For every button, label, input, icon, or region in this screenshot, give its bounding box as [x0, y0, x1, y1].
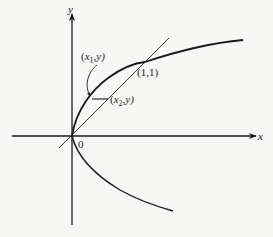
intersection-label: (1,1) — [137, 66, 158, 79]
x-axis-label: x — [257, 130, 263, 142]
diagram-canvas: y x 0 (1,1) (x1,y) (x2,y) — [0, 0, 273, 237]
point-x2-label: (x2,y) — [110, 93, 134, 108]
pointer-arrow-icon — [87, 65, 97, 96]
lower-curve — [72, 136, 173, 211]
point-x1-label: (x1,y) — [81, 50, 105, 65]
y-axis-label: y — [67, 3, 73, 15]
origin-label: 0 — [78, 138, 84, 150]
